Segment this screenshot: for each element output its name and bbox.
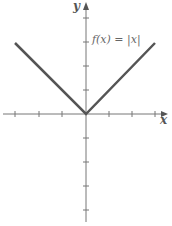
y-axis-label: y <box>73 0 80 13</box>
x-axis-label: x <box>160 113 167 127</box>
abs-function-line <box>15 43 155 114</box>
y-axis-arrow <box>83 2 89 10</box>
absolute-value-graph <box>0 0 172 226</box>
function-label: f(x) = |x| <box>92 33 141 46</box>
